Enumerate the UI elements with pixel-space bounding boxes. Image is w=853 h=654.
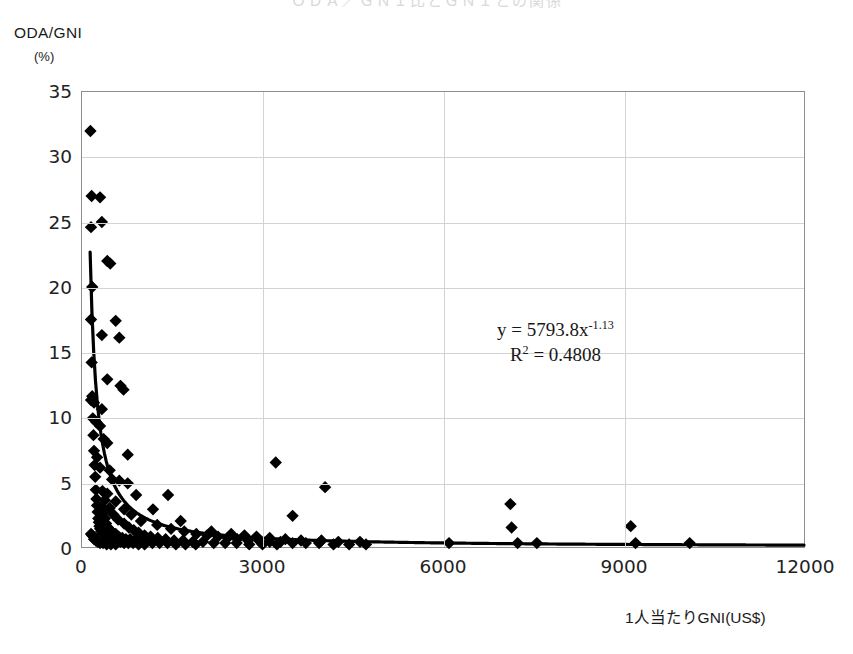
x-tick-label: 6000 [419, 556, 466, 577]
data-point [147, 503, 159, 515]
gridline-horizontal [82, 223, 804, 224]
equation-exponent: -1.13 [589, 318, 614, 332]
x-axis-title: 1人当たりGNI(US$) [625, 605, 766, 627]
data-point [94, 191, 106, 203]
plot-area [81, 91, 805, 548]
data-point [165, 523, 177, 535]
x-tick-label: 3000 [238, 556, 285, 577]
y-tick-label: 15 [6, 342, 72, 363]
y-axis-unit: (%) [34, 49, 54, 64]
x-tick-label: 12000 [776, 556, 835, 577]
y-tick-label: 10 [6, 407, 72, 428]
gridline-horizontal [82, 418, 804, 419]
r-symbol: R [510, 344, 523, 365]
gridline-vertical [263, 92, 264, 547]
gridline-vertical [444, 92, 445, 547]
data-point [85, 313, 97, 325]
data-point [504, 498, 516, 510]
regression-annotation: y = 5793.8x-1.13 R2 = 0.4808 [448, 317, 663, 367]
data-point [270, 456, 282, 468]
y-tick-label: 0 [6, 538, 72, 559]
chart-title: ＯＤＡ／ＧＮＩ比とＧＮＩとの関係 [0, 0, 853, 10]
data-point [174, 515, 186, 527]
gridline-horizontal [82, 484, 804, 485]
y-tick-label: 35 [6, 81, 72, 102]
data-point [511, 537, 523, 549]
gridline-horizontal [82, 288, 804, 289]
x-axis-tick-labels: 030006000900012000 [81, 556, 805, 586]
r-squared-value: = 0.4808 [529, 344, 601, 365]
data-point [684, 537, 696, 549]
data-point [286, 510, 298, 522]
x-tick-label: 9000 [600, 556, 647, 577]
data-point [162, 489, 174, 501]
y-tick-label: 30 [6, 146, 72, 167]
data-point [103, 464, 115, 476]
data-point [84, 125, 96, 137]
x-tick-label: 0 [75, 556, 87, 577]
gridline-horizontal [82, 353, 804, 354]
y-axis-tick-labels: 05101520253035 [0, 91, 72, 548]
data-point [87, 429, 99, 441]
y-tick-label: 25 [6, 211, 72, 232]
data-point [531, 537, 543, 549]
data-point [130, 489, 142, 501]
regression-equation: y = 5793.8x-1.13 [448, 317, 663, 342]
y-tick-label: 5 [6, 472, 72, 493]
y-tick-label: 20 [6, 276, 72, 297]
data-point [625, 520, 637, 532]
chart-page: ＯＤＡ／ＧＮＩ比とＧＮＩとの関係 ODA/GNI (%) 05101520253… [0, 0, 853, 654]
data-point [110, 315, 122, 327]
scatter-svg [82, 92, 804, 547]
gridline-horizontal [82, 157, 804, 158]
data-point [629, 537, 641, 549]
r-squared-line: R2 = 0.4808 [448, 342, 663, 367]
data-point [505, 521, 517, 533]
data-point [96, 329, 108, 341]
data-point [113, 332, 125, 344]
equation-prefix: y = 5793.8x [497, 319, 588, 340]
data-point [101, 373, 113, 385]
y-axis-title: ODA/GNI [14, 24, 82, 42]
data-point [122, 449, 134, 461]
trendline [90, 252, 804, 545]
